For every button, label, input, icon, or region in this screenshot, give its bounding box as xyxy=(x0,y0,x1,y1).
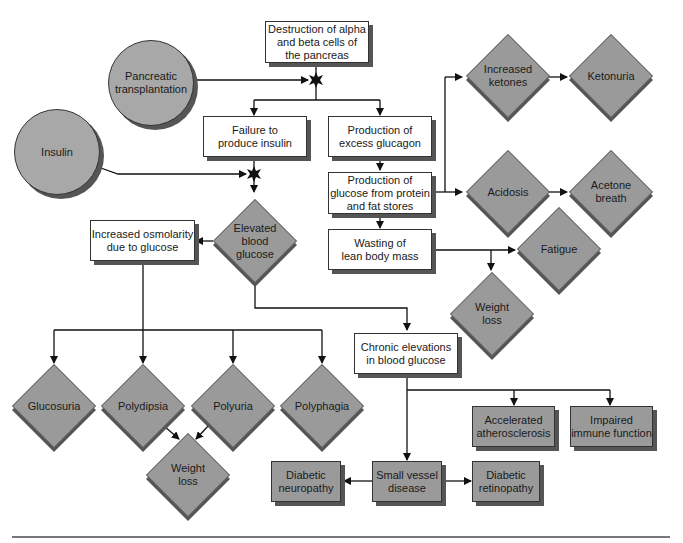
diabetic-retinopathy-label: Diabetic retinopathy xyxy=(479,469,533,495)
small-vessel-box: Small vessel disease xyxy=(372,461,442,502)
elevated-glucose-diamond: Elevated blood glucose xyxy=(213,199,297,283)
increased-osmolarity-box: Increased osmolarity due to glucose xyxy=(90,220,195,261)
impaired-immune-label: Impaired immune function xyxy=(571,414,652,440)
impaired-immune-box: Impaired immune function xyxy=(570,406,653,447)
diabetic-neuropathy-box: Diabetic neuropathy xyxy=(271,461,341,502)
increased-ketones-label: Increased ketones xyxy=(466,34,550,118)
bottom-divider xyxy=(12,536,670,538)
weight-loss-bottom-diamond: Weight loss xyxy=(146,433,230,517)
polyphagia-diamond: Polyphagia xyxy=(280,364,364,448)
polyphagia-label: Polyphagia xyxy=(280,364,364,448)
weight-loss-top-label: Weight loss xyxy=(450,272,534,356)
increased-ketones-diamond: Increased ketones xyxy=(466,34,550,118)
ketonuria-diamond: Ketonuria xyxy=(569,34,653,118)
pancreatic-transplantation-circle: Pancreatic transplantation xyxy=(108,40,194,126)
glucosuria-label: Glucosuria xyxy=(12,364,96,448)
small-vessel-label: Small vessel disease xyxy=(376,469,438,495)
insulin-label: Insulin xyxy=(41,146,73,159)
increased-osmolarity-label: Increased osmolarity due to glucose xyxy=(92,228,194,254)
destruction-label: Destruction of alpha and beta cells of t… xyxy=(268,23,366,62)
glucose-from-protein-box: Production of glucose from protein and f… xyxy=(328,172,432,214)
excess-glucagon-box: Production of excess glucagon xyxy=(328,116,432,157)
insulin-circle: Insulin xyxy=(14,109,100,195)
failure-insulin-box: Failure to produce insulin xyxy=(203,116,307,157)
glucosuria-diamond: Glucosuria xyxy=(12,364,96,448)
ketonuria-label: Ketonuria xyxy=(569,34,653,118)
wasting-box: Wasting of lean body mass xyxy=(328,229,432,270)
elevated-glucose-label: Elevated blood glucose xyxy=(213,199,297,283)
pancreatic-transplantation-label: Pancreatic transplantation xyxy=(115,70,187,96)
chronic-elevations-box: Chronic elevations in blood glucose xyxy=(354,333,458,374)
chronic-elevations-label: Chronic elevations in blood glucose xyxy=(361,341,452,367)
accelerated-atherosclerosis-box: Accelerated atherosclerosis xyxy=(472,406,555,447)
weight-loss-top-diamond: Weight loss xyxy=(450,272,534,356)
glucose-from-protein-label: Production of glucose from protein and f… xyxy=(330,174,430,213)
accelerated-atherosclerosis-label: Accelerated atherosclerosis xyxy=(477,414,551,440)
diabetic-retinopathy-box: Diabetic retinopathy xyxy=(472,461,540,502)
excess-glucagon-label: Production of excess glucagon xyxy=(339,124,421,150)
weight-loss-bottom-label: Weight loss xyxy=(146,433,230,517)
destruction-box: Destruction of alpha and beta cells of t… xyxy=(265,21,369,63)
wasting-label: Wasting of lean body mass xyxy=(341,237,418,263)
diabetic-neuropathy-label: Diabetic neuropathy xyxy=(278,469,333,495)
failure-insulin-label: Failure to produce insulin xyxy=(218,124,292,150)
